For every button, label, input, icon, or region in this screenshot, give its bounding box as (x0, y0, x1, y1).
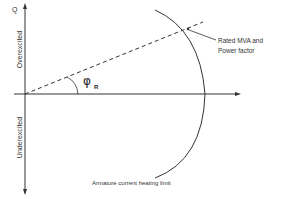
q-axis-bottom-arrowhead-icon (23, 189, 27, 195)
q-axis-label: Q (12, 6, 17, 13)
rated-annotation-line-2: Power factor (218, 46, 263, 56)
capability-diagram (0, 0, 282, 199)
angle-phi-subscript: R (94, 84, 98, 90)
angle-phi-symbol: φ (83, 74, 91, 88)
underexcited-label: Underexcited (16, 113, 23, 163)
heating-limit-label: Armature current heating limit (92, 180, 171, 186)
rated-pf-dashed-line (25, 22, 203, 94)
q-axis-arrowhead-icon (23, 3, 27, 9)
rated-annotation: Rated MVA and Power factor (218, 36, 263, 56)
p-axis-arrowhead-icon (235, 92, 241, 96)
overexcited-label: Overexcited (16, 27, 23, 73)
rated-annotation-leader (189, 30, 216, 40)
rated-point-marker (187, 28, 190, 31)
rated-annotation-line-1: Rated MVA and (218, 36, 263, 46)
angle-arc (67, 77, 78, 94)
